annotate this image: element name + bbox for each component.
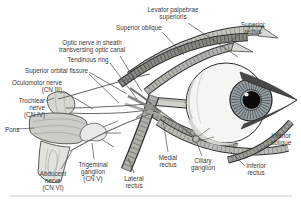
label-inferior-oblique: Inferior oblique	[271, 132, 291, 146]
leader-trigeminal	[92, 143, 94, 159]
label-superior-oblique: Superior oblique	[116, 24, 162, 31]
label-oculomotor-nerve: Oculomotor nerve (CN III)	[12, 79, 62, 93]
label-inferior-rectus: Inferior rectus	[246, 162, 266, 176]
pupil-highlight	[244, 92, 248, 96]
label-tendinous-ring: Tendinous ring	[68, 56, 109, 63]
label-trigeminal-ganglion: Trigeminal ganglion (CN V)	[78, 161, 107, 182]
label-trochlear-nerve: Trochlear nerve (CN IV)	[19, 97, 45, 118]
label-optic-nerve-in-sheath: Optic nerve in sheath transversing optic…	[59, 39, 125, 53]
label-abducent-nerve: Abducent nerve (CN VI)	[40, 170, 67, 191]
trigeminal-ganglion-shape	[80, 121, 121, 147]
label-pons: Pons	[5, 126, 19, 133]
trochlear-nerve-line	[58, 74, 150, 99]
label-superior-rectus: Superior rectus	[241, 21, 265, 35]
label-medial-rectus: Medial rectus	[159, 154, 178, 168]
label-ciliary-ganglion: Ciliary ganglion	[191, 157, 215, 171]
figure-canvas: Levator palpebrae superioris Superior ob…	[0, 0, 301, 202]
label-superior-orbital-fissure: Superior orbital fissure	[25, 67, 88, 74]
label-lateral-rectus: Lateral rectus	[124, 175, 143, 189]
label-levator-palpebrae-superioris: Levator palpebrae superioris	[148, 6, 199, 20]
